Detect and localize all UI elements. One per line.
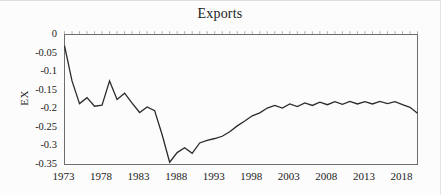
y-tick-label: -0.05 xyxy=(0,46,57,60)
x-tick-label: 1978 xyxy=(81,169,121,183)
y-tick-label: -0.1 xyxy=(0,64,57,78)
plot-area xyxy=(64,30,418,170)
x-tick-label: 2003 xyxy=(269,169,309,183)
x-tick-label: 1993 xyxy=(194,169,234,183)
x-tick-label: 1998 xyxy=(231,169,271,183)
x-tick-label: 1983 xyxy=(119,169,159,183)
y-tick-label: 0 xyxy=(0,27,57,41)
x-tick-label: 2013 xyxy=(344,169,384,183)
chart-title: Exports xyxy=(0,5,440,23)
x-tick-label: 2018 xyxy=(381,169,421,183)
y-tick-label: -0.3 xyxy=(0,138,57,152)
x-tick-label: 1988 xyxy=(156,169,196,183)
y-tick-label: -0.25 xyxy=(0,120,57,134)
exports-line-series xyxy=(64,45,417,162)
exports-chart-figure: Exports EX 0-0.05-0.1-0.15-0.2-0.25-0.3-… xyxy=(0,0,441,195)
x-tick-label: 2008 xyxy=(306,169,346,183)
y-tick-label: -0.2 xyxy=(0,101,57,115)
y-tick-label: -0.15 xyxy=(0,83,57,97)
x-tick-label: 1973 xyxy=(44,169,84,183)
